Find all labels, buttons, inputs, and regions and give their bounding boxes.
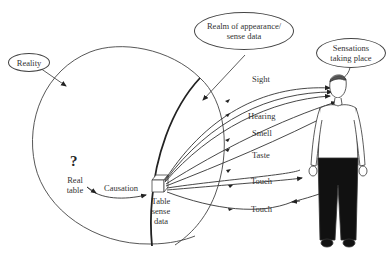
realm-outer-arc	[175, 78, 224, 245]
causation-label: Causation	[104, 183, 138, 193]
sense-label-touch-2: Touch	[251, 204, 272, 214]
sense-label-touch-1: Touch	[251, 176, 272, 186]
person-figure	[309, 75, 367, 247]
sense-label-hearing: Hearing	[248, 111, 275, 121]
realm-of-appearance-callout: Realm of appearance/ sense data	[194, 12, 294, 50]
reality-callout: Reality	[8, 53, 50, 72]
sense-label-taste: Taste	[252, 150, 270, 160]
table-sense-data-label: Table sense data	[149, 196, 173, 226]
realm-pointer	[203, 55, 245, 100]
sense-data-diagram	[0, 0, 391, 258]
sense-label-smell: Smell	[252, 128, 272, 138]
sense-label-sight: Sight	[252, 74, 270, 84]
question-mark: ?	[70, 153, 78, 170]
real-table-label: Real table	[64, 175, 86, 195]
table-sense-data-cube	[152, 175, 168, 192]
reality-pointer	[40, 68, 66, 86]
reality-circle	[32, 47, 200, 244]
sensations-callout: Sensations taking place	[316, 38, 386, 68]
